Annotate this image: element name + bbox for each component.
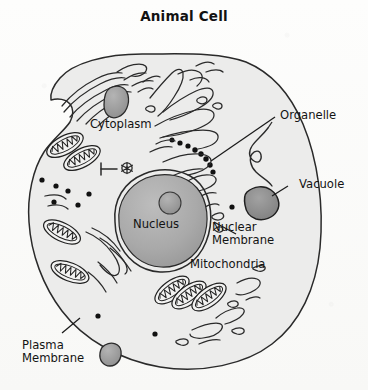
label-plasma-membrane: Plasma Membrane <box>22 339 84 364</box>
label-mitochondria: Mitochondria <box>190 258 265 271</box>
label-nucleus: Nucleus <box>133 218 179 231</box>
vacuole-shape <box>244 187 278 220</box>
diagram-canvas: Animal Cell <box>0 0 368 390</box>
label-nuclear-membrane: Nuclear Membrane <box>212 221 274 246</box>
nucleolus <box>159 192 181 214</box>
label-organelle: Organelle <box>280 109 336 122</box>
animal-cell-illustration <box>0 0 368 390</box>
organelle-blob-bottom-left <box>100 343 121 366</box>
label-vacuole: Vacuole <box>299 178 344 191</box>
label-cytoplasm: Cytoplasm <box>90 118 152 131</box>
